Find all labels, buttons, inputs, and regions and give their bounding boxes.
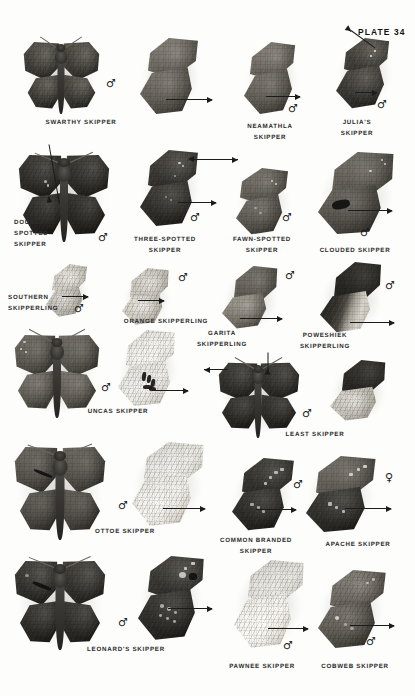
caption-common-branded-line2: SKIPPER: [240, 547, 272, 557]
caption-double-spotted-line1: DOUBLE-: [14, 218, 47, 228]
pointer-uncas-ventral: [152, 390, 188, 391]
caption-leonards-skipper: LEONARD'S SKIPPER: [87, 645, 165, 655]
pointer-three-spotted-top: [194, 159, 238, 160]
pointer-least-top: [268, 369, 269, 373]
caption-double-spotted-line2: SPOTTED: [14, 229, 48, 239]
caption-apache-skipper: APACHE SKIPPER: [325, 540, 390, 550]
pointer-neamathla: [266, 96, 300, 97]
thorax: [57, 165, 72, 182]
specimen-leonards-skipper-ventral: [138, 556, 206, 642]
caption-julias-line1: JULIA'S: [343, 118, 372, 128]
caption-clouded-skipper: CLOUDED SKIPPER: [320, 246, 391, 256]
sex-symbol-apache: ♀: [385, 472, 393, 483]
sex-symbol-orange-skipperling: ♂: [178, 272, 188, 283]
specimen-least-skipper-ventral: [330, 360, 388, 422]
sex-symbol-leonards: ♂: [118, 617, 128, 628]
sex-symbol-least: ♂: [302, 408, 312, 419]
caption-pawnee-skipper: PAWNEE SKIPPER: [229, 662, 295, 672]
sex-symbol-ottoe: ♂: [118, 500, 128, 511]
head: [52, 338, 63, 347]
pointer-swarthy-ventral: [166, 99, 212, 100]
specimen-cobweb-skipper: [318, 570, 388, 650]
head: [54, 564, 66, 574]
sex-symbol-garita: ♂: [285, 270, 295, 281]
abdomen: [58, 56, 65, 114]
specimen-least-skipper-dorsal: [218, 358, 298, 440]
pointer-leonards-ventral: [168, 608, 212, 609]
sex-symbol-southern-skipperling: ♂: [74, 303, 84, 314]
sex-symbol-three-spotted: ♂: [190, 212, 200, 223]
caption-uncas-skipper: UNCAS SKIPPER: [88, 407, 149, 417]
caption-orange-skipperling: ORANGE SKIPPERLING: [124, 317, 208, 327]
pointer-southern-skipperling: [62, 296, 88, 297]
caption-least-skipper: LEAST SKIPPER: [286, 430, 345, 440]
caption-fawn-spotted-line2: SKIPPER: [246, 246, 278, 256]
abdomen: [53, 352, 61, 418]
sex-symbol-common-branded: ♂: [293, 479, 303, 490]
sex-symbol-clouded: ♂: [360, 227, 370, 238]
sex-symbol-uncas: ♂: [101, 382, 111, 393]
caption-southern-line2: SKIPPERLING: [8, 304, 58, 314]
pointer-least-left: [204, 369, 228, 370]
caption-julias-line2: SKIPPER: [341, 129, 373, 139]
caption-neamathla-line1: NEAMATHLA: [247, 122, 292, 132]
specimen-pawnee-skipper: [234, 560, 306, 650]
sex-symbol-fawn-spotted: ♂: [282, 212, 292, 223]
specimen-clouded-skipper: [318, 152, 396, 236]
specimen-ottoe-skipper-dorsal: [14, 442, 106, 544]
thorax: [55, 50, 67, 64]
abdomen: [255, 376, 262, 438]
sex-symbol-poweshiek: ♂: [385, 280, 395, 291]
caption-ottoe-skipper: OTTOE SKIPPER: [95, 527, 155, 537]
caption-southern-line1: SOUTHERN: [8, 293, 49, 303]
abdomen: [60, 172, 68, 242]
specimen-swarthy-skipper-dorsal: [22, 36, 100, 118]
caption-common-branded-line1: COMMON BRANDED: [220, 536, 292, 546]
pointer-poweshiek: [350, 322, 394, 323]
caption-swarthy-skipper: SWARTHY SKIPPER: [46, 118, 117, 128]
caption-garita-line1: GARITA: [208, 329, 236, 339]
pointer-apache: [345, 508, 391, 509]
pointer-plate-leader: [347, 29, 351, 32]
plate-page: PLATE 34 ♂ SWARTHY SKIPPER: [0, 0, 415, 696]
specimen-uncas-skipper-ventral: [118, 330, 180, 408]
plate-title: PLATE 34: [358, 27, 406, 37]
caption-garita-line2: SKIPPERLING: [197, 340, 247, 350]
specimen-common-branded-skipper: [232, 458, 296, 532]
caption-three-spotted-line1: THREE-SPOTTED: [134, 235, 196, 245]
pointer-orange-skipperling: [138, 300, 164, 301]
specimen-swarthy-skipper-ventral: [140, 38, 202, 116]
head: [59, 158, 70, 167]
pointer-ottoe-ventral: [163, 508, 205, 509]
head: [54, 451, 66, 461]
specimen-fawn-spotted-skipper: [236, 168, 292, 236]
specimen-ottoe-skipper-ventral: [132, 442, 206, 528]
caption-poweshiek-line2: SKIPPERLING: [300, 342, 350, 352]
sex-symbol-neamathla: ♂: [288, 103, 298, 114]
pointer-cobweb: [350, 625, 394, 626]
sex-symbol-pawnee: ♂: [283, 640, 293, 651]
specimen-poweshiek-skipperling: [320, 262, 384, 334]
caption-cobweb-skipper: COBWEB SKIPPER: [321, 662, 389, 672]
caption-neamathla-line2: SKIPPER: [254, 133, 286, 143]
pointer-julias: [355, 92, 377, 93]
specimen-leonards-skipper-dorsal: [14, 556, 106, 656]
specimen-apache-skipper: [306, 456, 378, 534]
sex-symbol-julias: ♂: [377, 99, 387, 110]
caption-double-spotted-line3: SKIPPER: [14, 240, 46, 250]
pointer-common-branded: [256, 509, 296, 510]
sex-symbol-cobweb: ♂: [366, 636, 376, 647]
pointer-three-spotted-lower: [178, 202, 216, 203]
pointer-pawnee: [268, 628, 308, 629]
specimen-garita-skipperling: [222, 266, 280, 330]
caption-three-spotted-line2: SKIPPER: [149, 246, 181, 256]
sex-symbol-double-spotted: ♂: [98, 232, 108, 243]
caption-fawn-spotted-line1: FAWN-SPOTTED: [233, 235, 291, 245]
head: [254, 365, 263, 373]
pointer-double-spotted: [49, 196, 51, 202]
head: [57, 44, 66, 52]
abdomen: [56, 466, 65, 540]
sex-symbol-swarthy: ♂: [106, 78, 116, 89]
caption-poweshiek-line1: POWESHIEK: [303, 331, 348, 341]
pointer-garita: [240, 318, 282, 319]
